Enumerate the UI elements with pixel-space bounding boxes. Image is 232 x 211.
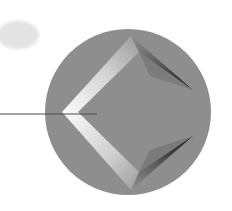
illustration (0, 0, 232, 211)
blurred-ellipse (0, 21, 39, 49)
